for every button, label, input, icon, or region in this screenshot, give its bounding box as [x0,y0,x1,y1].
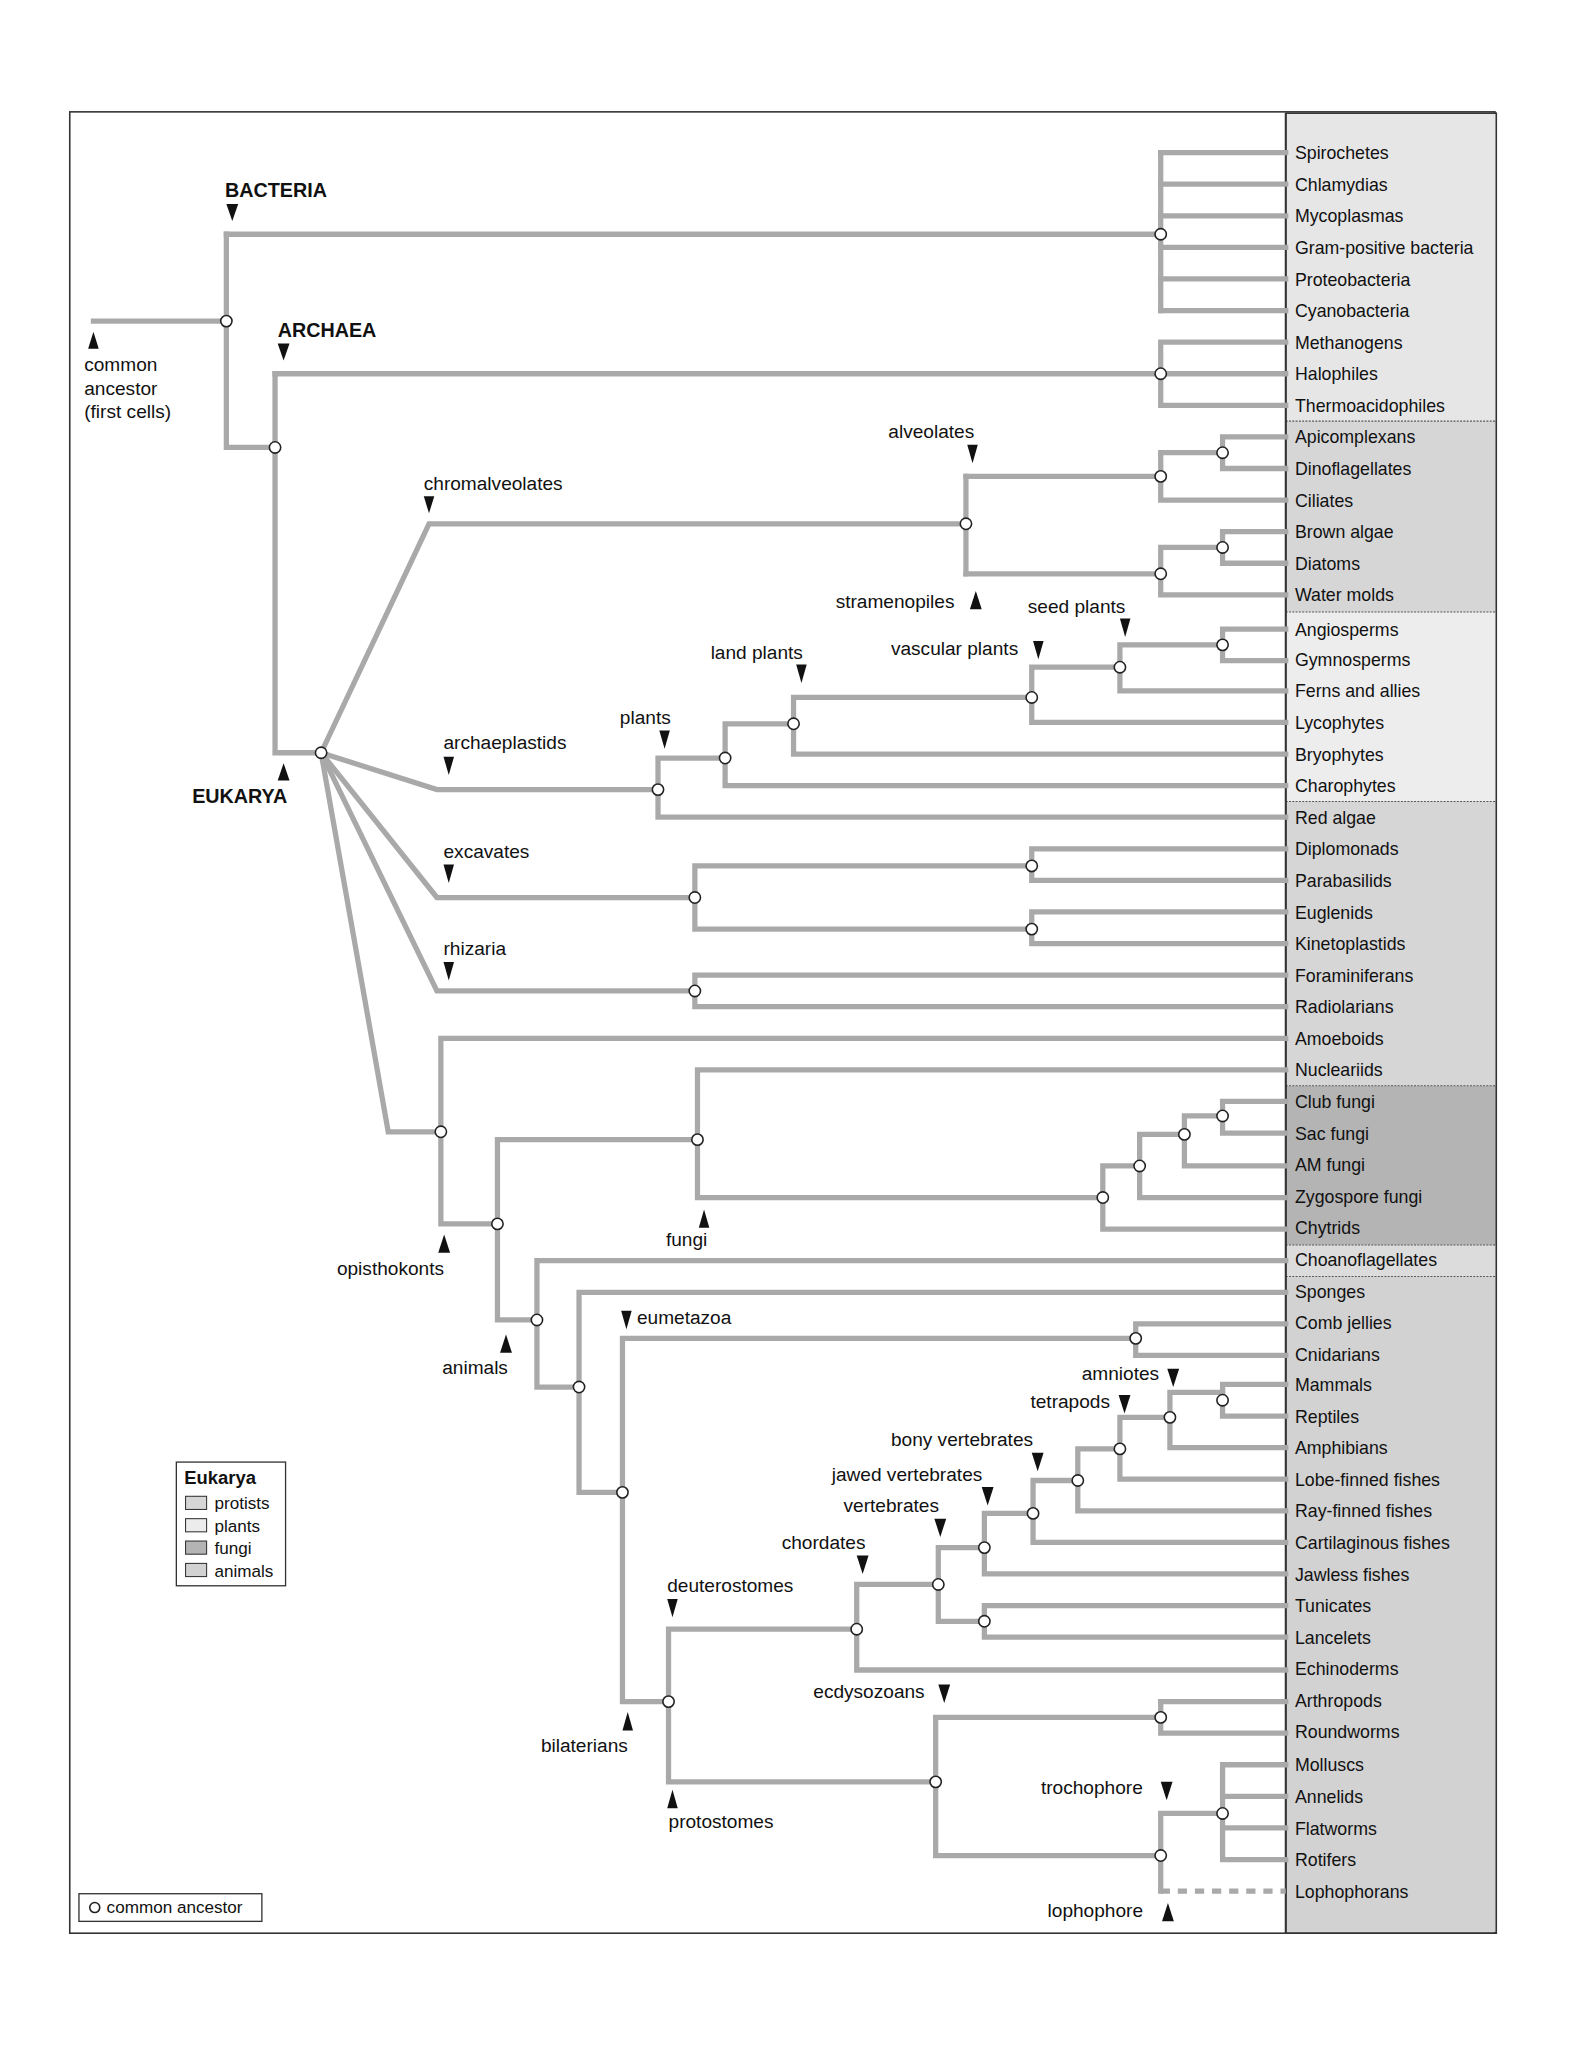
taxon-label: Lophophorans [1295,1882,1409,1902]
taxon-label: Red algae [1295,808,1376,828]
taxon-label: Amoeboids [1295,1029,1384,1049]
legend-item-label: protists [215,1494,270,1513]
svg-text:ancestor: ancestor [84,378,158,399]
legend-title: Eukarya [184,1467,256,1488]
taxon-label: Roundworms [1295,1722,1400,1742]
tree-of-life-diagram: SpirochetesChlamydiasMycoplasmasGram-pos… [0,0,1579,2068]
svg-text:land plants: land plants [711,642,803,663]
svg-text:archaeplastids: archaeplastids [443,732,566,753]
taxon-label: Apicomplexans [1295,427,1415,447]
legend-swatch-animals [186,1563,207,1576]
taxon-label: Cnidarians [1295,1345,1380,1365]
label-archaea: ARCHAEA [278,319,377,341]
taxon-label: Gymnosperms [1295,650,1411,670]
legend-item-label: animals [215,1562,274,1581]
taxon-label: Sac fungi [1295,1124,1369,1144]
taxon-label: Choanoflagellates [1295,1250,1437,1270]
taxon-label: AM fungi [1295,1155,1365,1175]
panel-plants [1286,612,1497,802]
taxon-label: Flatworms [1295,1819,1377,1839]
diagram-frame [70,112,1495,1933]
taxon-label: Thermoacidophiles [1295,396,1445,416]
taxon-label: Arthropods [1295,1691,1382,1711]
taxon-label: Club fungi [1295,1092,1375,1112]
svg-text:ecdysozoans: ecdysozoans [813,1681,924,1702]
svg-text:trochophore: trochophore [1041,1777,1143,1798]
svg-text:deuterostomes: deuterostomes [667,1575,793,1596]
label-bacteria: BACTERIA [225,179,327,201]
taxon-label: Mycoplasmas [1295,206,1404,226]
legend-swatch-plants [186,1519,207,1532]
taxon-label: Tunicates [1295,1596,1371,1616]
taxon-label: Ferns and allies [1295,681,1420,701]
taxon-label: Ray-finned fishes [1295,1501,1432,1521]
svg-text:chordates: chordates [782,1532,866,1553]
taxon-label: Lobe-finned fishes [1295,1470,1440,1490]
eukarya-legend: Eukarya protistsplantsfungianimals [176,1462,285,1586]
svg-text:vertebrates: vertebrates [844,1495,939,1516]
taxon-label: Jawless fishes [1295,1565,1410,1585]
taxon-label: Kinetoplastids [1295,934,1406,954]
taxon-label: Charophytes [1295,776,1396,796]
taxon-label: Lancelets [1295,1628,1371,1648]
legend-swatch-protists [186,1496,207,1509]
legend-item-label: fungi [215,1539,252,1558]
svg-text:lophophore: lophophore [1048,1900,1143,1921]
taxon-label: Chytrids [1295,1218,1360,1238]
taxon-label: Euglenids [1295,903,1373,923]
svg-text:animals: animals [442,1357,508,1378]
svg-text:bony vertebrates: bony vertebrates [891,1429,1033,1450]
taxon-label: Cyanobacteria [1295,301,1410,321]
taxon-label: Parabasilids [1295,871,1392,891]
taxon-label: Ciliates [1295,491,1353,511]
taxon-label: Nucleariids [1295,1060,1383,1080]
taxon-label: Rotifers [1295,1850,1356,1870]
svg-text:seed plants: seed plants [1028,596,1126,617]
taxon-label: Brown algae [1295,522,1394,542]
legend-swatch-fungi [186,1541,207,1554]
panel-protists-a [1286,421,1497,612]
taxon-label: Comb jellies [1295,1313,1392,1333]
svg-text:fungi: fungi [666,1229,707,1250]
taxon-label: Dinoflagellates [1295,459,1412,479]
svg-text:protostomes: protostomes [669,1811,774,1832]
svg-text:opisthokonts: opisthokonts [337,1258,444,1279]
taxon-label: Zygospore fungi [1295,1187,1422,1207]
taxon-label: Angiosperms [1295,620,1399,640]
taxon-label: Molluscs [1295,1755,1364,1775]
taxon-label: Reptiles [1295,1407,1359,1427]
taxon-label: Proteobacteria [1295,270,1411,290]
svg-text:eumetazoa: eumetazoa [637,1307,732,1328]
taxon-label: Amphibians [1295,1438,1388,1458]
taxon-label: Spirochetes [1295,143,1389,163]
taxon-label: Gram-positive bacteria [1295,238,1474,258]
label-common-ancestor: common [84,354,157,375]
node-key-legend: common ancestor [79,1894,262,1922]
taxon-label: Mammals [1295,1375,1372,1395]
svg-text:bilaterians: bilaterians [541,1735,628,1756]
taxon-label: Cartilaginous fishes [1295,1533,1450,1553]
svg-text:chromalveolates: chromalveolates [424,473,563,494]
taxon-label: Foraminiferans [1295,966,1413,986]
taxon-label: Annelids [1295,1787,1363,1807]
svg-text:plants: plants [620,707,671,728]
taxon-label: Chlamydias [1295,175,1388,195]
svg-text:vascular plants: vascular plants [891,638,1018,659]
svg-text:excavates: excavates [443,841,529,862]
taxon-label: Water molds [1295,585,1394,605]
node-circle-icon [90,1903,100,1913]
taxon-label: Radiolarians [1295,997,1394,1017]
node-key-label: common ancestor [107,1898,243,1917]
taxon-label: Lycophytes [1295,713,1384,733]
legend-item-label: plants [215,1517,261,1536]
svg-text:(first cells): (first cells) [84,401,171,422]
taxon-label: Diplomonads [1295,839,1399,859]
taxon-label: Sponges [1295,1282,1365,1302]
taxon-label: Methanogens [1295,333,1403,353]
taxon-label: Diatoms [1295,554,1360,574]
svg-text:alveolates: alveolates [888,421,974,442]
svg-text:tetrapods: tetrapods [1030,1391,1110,1412]
label-eukarya: EUKARYA [192,785,287,807]
svg-text:rhizaria: rhizaria [443,938,506,959]
svg-text:amniotes: amniotes [1082,1363,1159,1384]
